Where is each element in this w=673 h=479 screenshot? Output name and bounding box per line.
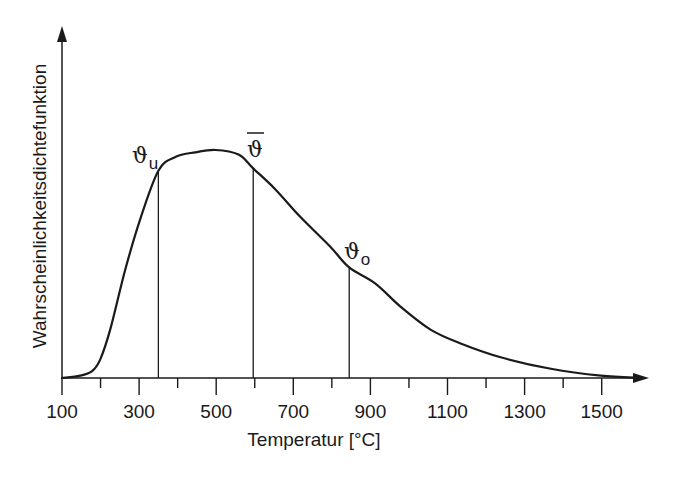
marker-lines — [158, 168, 349, 378]
x-tick-label: 900 — [355, 401, 387, 422]
chart-canvas: 100300500700900110013001500 ϑu ϑ ϑo Temp… — [0, 0, 673, 479]
marker-label-mean: ϑ — [247, 137, 263, 162]
x-tick-label: 300 — [123, 401, 155, 422]
y-axis-title: Wahrscheinlichkeitsdichtefunktion — [29, 64, 50, 348]
x-ticks — [62, 378, 602, 395]
y-axis-arrow-icon — [57, 26, 67, 42]
marker-label-o: ϑo — [344, 239, 370, 269]
x-tick-labels: 100300500700900110013001500 — [46, 401, 623, 422]
x-axis-title: Temperatur [°C] — [247, 429, 380, 450]
x-tick-label: 100 — [46, 401, 78, 422]
x-tick-label: 700 — [277, 401, 309, 422]
x-tick-label: 500 — [200, 401, 232, 422]
marker-label-u: ϑu — [132, 143, 158, 173]
x-tick-label: 1100 — [427, 401, 468, 422]
x-tick-label: 1500 — [581, 401, 623, 422]
x-tick-label: 1300 — [503, 401, 545, 422]
